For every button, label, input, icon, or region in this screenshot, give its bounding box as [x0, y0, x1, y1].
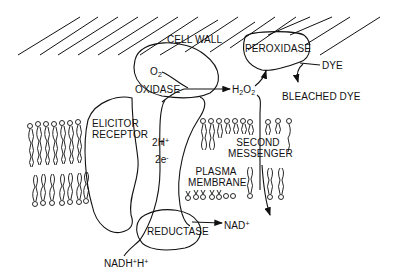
nad-sup: +: [245, 220, 249, 227]
lipid-bilayer-left: [28, 120, 89, 207]
h2o2-label: H2O2: [232, 84, 255, 98]
two-e-text: 2e: [155, 154, 166, 165]
dye-label: DYE: [322, 60, 343, 71]
bleached-dye-label: BLEACHED DYE: [282, 91, 360, 102]
plasma-text: PLASMA: [188, 166, 244, 177]
two-e-sup: -: [166, 154, 168, 161]
reductase-label: REDUCTASE: [147, 226, 209, 237]
h2o2-sub2: 2: [251, 89, 255, 96]
o2-label: O2: [150, 66, 162, 80]
second-messenger-label: SECOND MESSENGER: [228, 137, 288, 159]
messenger-text: MESSENGER: [228, 148, 288, 159]
nadh-label: NADH+H+: [104, 256, 148, 269]
two-h-label: 2H+: [152, 135, 169, 148]
nad-text: NAD: [224, 220, 245, 231]
nadh-text: NADH: [104, 258, 133, 269]
elicitor-text: ELICITOR: [92, 118, 136, 129]
o2-text: O: [150, 66, 158, 77]
two-h-sup: +: [165, 137, 169, 144]
membrane-text: MEMBRANE: [188, 177, 244, 188]
peroxidase-label: PEROXIDASE: [245, 43, 311, 54]
lipid-bilayer-right: [186, 119, 292, 201]
two-e-label: 2e-: [155, 152, 169, 165]
plasma-membrane-label: PLASMA MEMBRANE: [188, 166, 244, 188]
nadh-h-sup: +: [144, 258, 148, 265]
oxidase-label: OXIDASE: [135, 84, 180, 95]
cell-wall-label: CELL WALL: [167, 34, 222, 45]
o2-subscript: 2: [158, 71, 162, 78]
elicitor-receptor-label: ELICITOR RECEPTOR: [92, 118, 136, 140]
nad-label: NAD+: [224, 218, 250, 231]
receptor-text: RECEPTOR: [92, 129, 136, 140]
two-h-text: 2H: [152, 137, 165, 148]
second-text: SECOND: [228, 137, 288, 148]
